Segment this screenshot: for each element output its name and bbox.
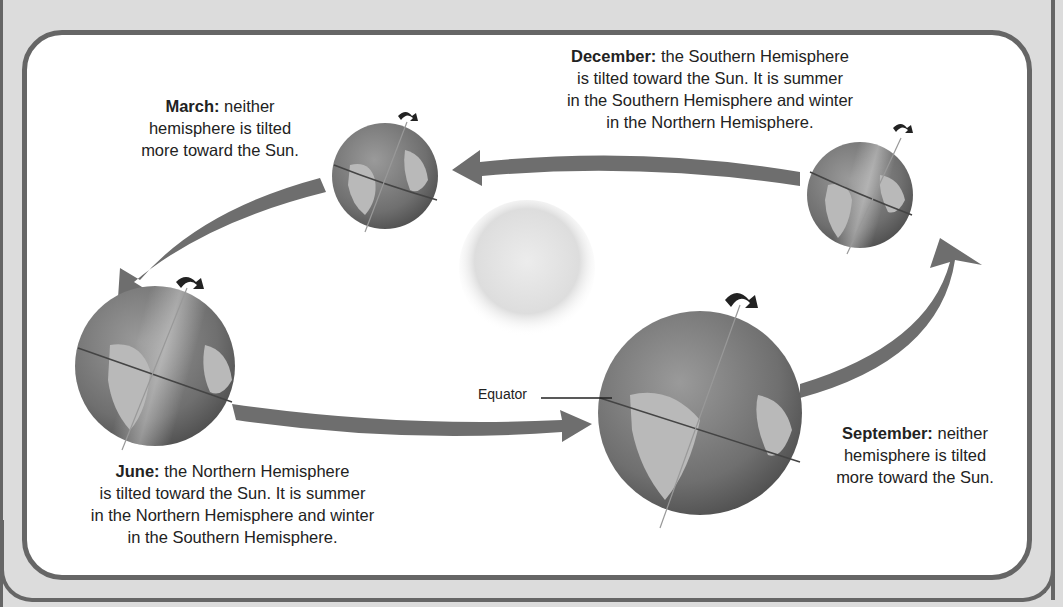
caption-line: the Northern Hemisphere	[164, 462, 349, 480]
caption-march: March: neither hemisphere is tilted more…	[100, 95, 340, 161]
caption-december: December: the Southern Hemisphere is til…	[505, 45, 915, 133]
caption-line: the Southern Hemisphere	[661, 47, 849, 65]
globe-june	[75, 277, 235, 452]
orbit-arrow-september-to-december	[800, 238, 982, 398]
equator-label: Equator	[478, 386, 527, 402]
orbit-arrow-december-to-march	[452, 150, 800, 186]
rotation-arrow-icon	[176, 277, 204, 289]
caption-line: is tilted toward the Sun. It is summer	[505, 67, 915, 89]
sun	[459, 200, 595, 336]
caption-line: neither	[224, 97, 274, 115]
caption-line: more toward the Sun.	[100, 139, 340, 161]
globe-december	[807, 124, 913, 254]
orbit-arrow-march-to-june	[118, 178, 326, 298]
rotation-arrow-icon	[398, 112, 418, 121]
caption-june-month: June:	[116, 462, 160, 480]
caption-line: in the Northern Hemisphere.	[505, 111, 915, 133]
caption-line: in the Southern Hemisphere.	[35, 526, 430, 548]
caption-line: in the Southern Hemisphere and winter	[505, 89, 915, 111]
caption-line: is tilted toward the Sun. It is summer	[35, 482, 430, 504]
caption-line: neither	[937, 424, 987, 442]
globe-march	[332, 112, 438, 232]
globe-september	[598, 293, 802, 528]
caption-september: September: neither hemisphere is tilted …	[795, 422, 1035, 488]
caption-december-month: December:	[571, 47, 656, 65]
caption-line: in the Northern Hemisphere and winter	[35, 504, 430, 526]
rotation-arrow-icon	[725, 293, 758, 308]
caption-line: hemisphere is tilted	[795, 444, 1035, 466]
caption-line: hemisphere is tilted	[100, 117, 340, 139]
caption-line: more toward the Sun.	[795, 466, 1035, 488]
orbit-arrow-june-to-september	[232, 404, 592, 442]
caption-june: June: the Northern Hemisphere is tilted …	[35, 460, 430, 548]
caption-september-month: September:	[842, 424, 933, 442]
caption-march-month: March:	[165, 97, 219, 115]
